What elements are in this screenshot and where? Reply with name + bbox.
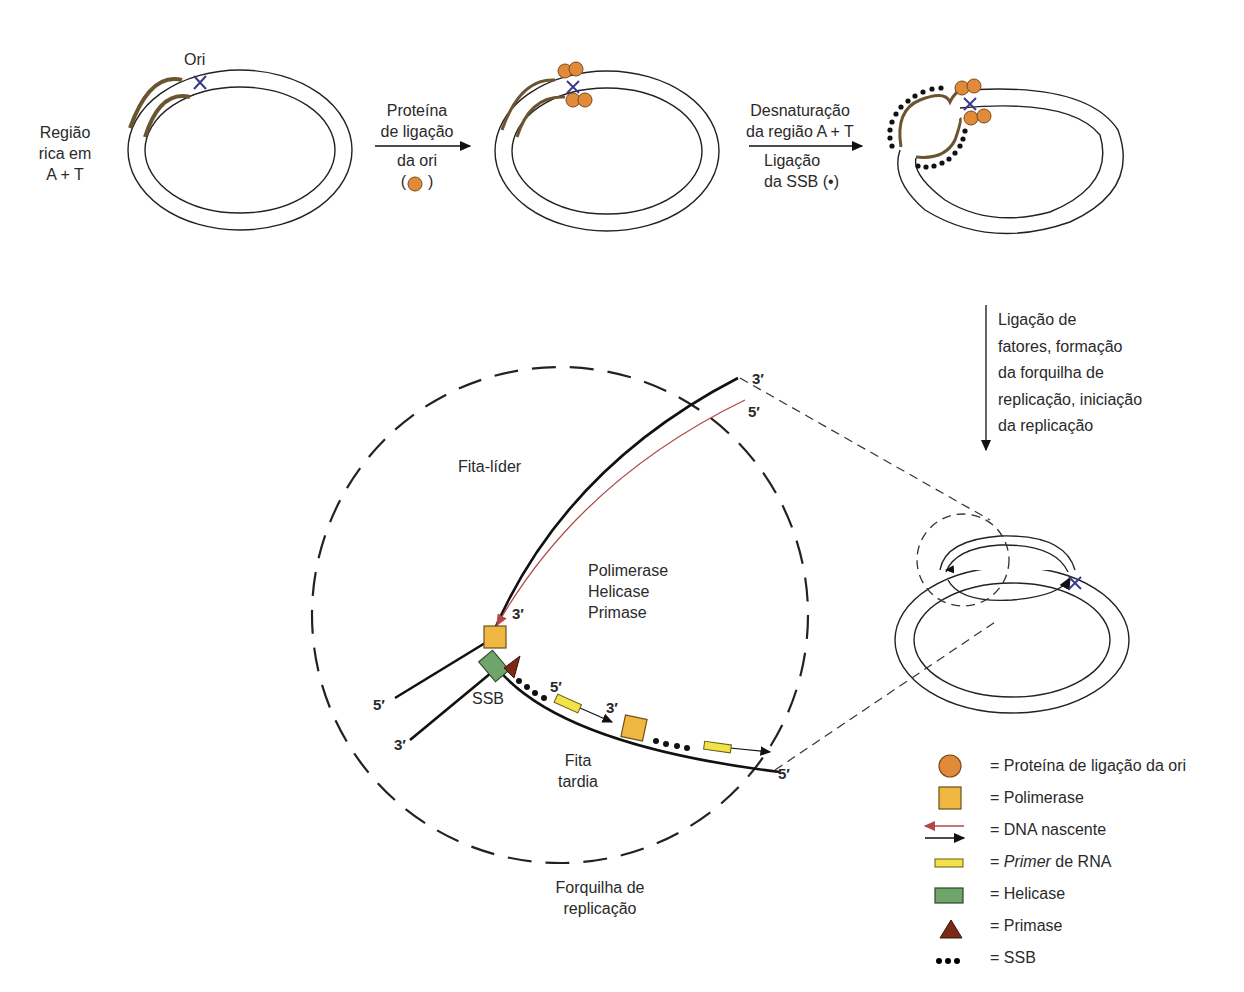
step3-line1: Ligação de [998, 307, 1142, 334]
ssb-dots-lagging [516, 678, 690, 751]
step3-line4: replicação, iniciação [998, 387, 1142, 414]
primer-2 [704, 741, 732, 753]
plasmid-bubble [895, 514, 1129, 713]
end-label-left-3: 3′ [394, 734, 406, 755]
step3-line5: da replicação [998, 413, 1142, 440]
legend-item-primer: = Primer de RNA [930, 851, 1230, 875]
ori-cross-icon [194, 76, 206, 89]
ori-cross-icon [567, 81, 579, 93]
ssb-dots-inner [915, 128, 967, 169]
at-label-line2: rica em [30, 143, 100, 164]
legend-item-polymerase: = Polimerase [930, 787, 1230, 811]
enzymes-label: Polimerase Helicase Primase [588, 560, 668, 623]
at-region-label: Região rica em A + T [30, 122, 100, 185]
fork-caption-line1: Forquilha de [540, 877, 660, 898]
step3-label: Ligação de fatores, formação da forquilh… [998, 307, 1142, 440]
replication-diagram [0, 0, 1244, 992]
legend-item-primase: = Primase [930, 915, 1230, 939]
ssb-label: SSB [472, 688, 504, 709]
step2-line2: da região A + T [740, 121, 860, 142]
plasmid-3 [887, 79, 1123, 234]
step1-line2: de ligação [372, 121, 462, 142]
fork-caption-line2: replicação [540, 898, 660, 919]
enzyme-polymerase: Polimerase [588, 560, 668, 581]
legend-item-nascent-dna: = DNA nascente [930, 819, 1230, 843]
plasmid-2 [495, 62, 719, 231]
polymerase-leading [484, 626, 506, 648]
okazaki-arrow-2 [730, 748, 770, 752]
polymerase-lagging [621, 715, 647, 741]
enzyme-primase: Primase [588, 602, 668, 623]
plasmid-1 [128, 70, 352, 230]
step1-line1: Proteína [372, 100, 462, 121]
lagging-line2: tardia [548, 771, 608, 792]
step2-line1: Desnaturação [740, 100, 860, 121]
lagging-line1: Fita [548, 750, 608, 771]
step3-line2: fatores, formação [998, 334, 1142, 361]
legend-item-ori-protein: = Proteína de ligação da ori [930, 755, 1230, 779]
primase [504, 656, 520, 678]
ori-cross-icon [964, 98, 976, 110]
step2-line4: da SSB (•) [764, 171, 839, 192]
step2-line3: Ligação [764, 150, 839, 171]
end-label-left-5: 5′ [373, 694, 385, 715]
step1-line4: () [372, 171, 462, 192]
step1-line3: da ori [372, 150, 462, 171]
legend-item-ssb: = SSB [930, 947, 1230, 971]
connector-bottom [775, 622, 995, 770]
step2-label-top: Desnaturação da região A + T [740, 100, 860, 142]
fork-caption: Forquilha de replicação [540, 877, 660, 919]
connector-top [740, 378, 990, 520]
at-region-inner [145, 96, 190, 137]
at-label-line3: A + T [30, 164, 100, 185]
legend-item-helicase: = Helicase [930, 883, 1230, 907]
lagging-strand-label: Fita tardia [548, 750, 608, 792]
end-label-okazaki-5: 5′ [550, 676, 562, 697]
end-label-bottom-5: 5′ [778, 763, 790, 784]
leading-strand-label: Fita-líder [458, 456, 521, 477]
at-label-line1: Região [30, 122, 100, 143]
step1-label-top: Proteína de ligação [372, 100, 462, 142]
end-label-top-3: 3′ [752, 368, 764, 389]
end-label-okazaki-3: 3′ [606, 697, 618, 718]
step3-line3: da forquilha de [998, 360, 1142, 387]
end-label-leading-3: 3′ [512, 603, 524, 624]
enzyme-helicase: Helicase [588, 581, 668, 602]
end-label-top-5: 5′ [748, 401, 760, 422]
ori-label: Ori [184, 49, 205, 70]
step1-label-bottom: da ori () [372, 150, 462, 192]
step2-label-bottom: Ligação da SSB (•) [764, 150, 839, 192]
